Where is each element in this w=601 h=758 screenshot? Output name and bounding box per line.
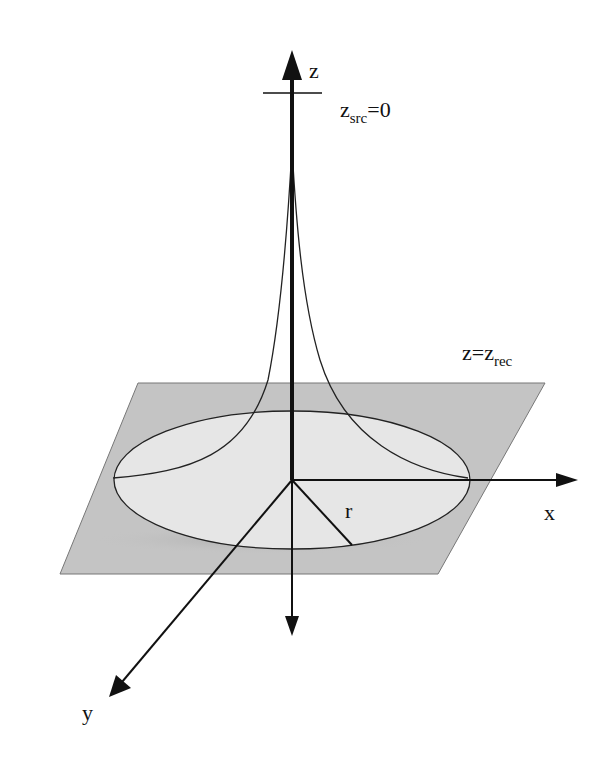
source-label: zsrc=0: [340, 97, 391, 126]
y-axis-arrowhead-icon: [109, 675, 131, 697]
x-axis-arrowhead-icon: [556, 473, 578, 487]
x-axis-label: x: [544, 500, 555, 525]
z-axis-arrowhead-icon: [282, 50, 302, 80]
z-axis-label: z: [309, 58, 319, 83]
receiver-label: z=zrec: [462, 340, 513, 369]
y-axis-label: y: [82, 700, 93, 725]
z-axis-down-arrowhead-icon: [285, 616, 299, 636]
diagram-canvas: z zsrc=0 z=zrec x y r: [0, 0, 601, 758]
radius-label: r: [345, 498, 353, 523]
